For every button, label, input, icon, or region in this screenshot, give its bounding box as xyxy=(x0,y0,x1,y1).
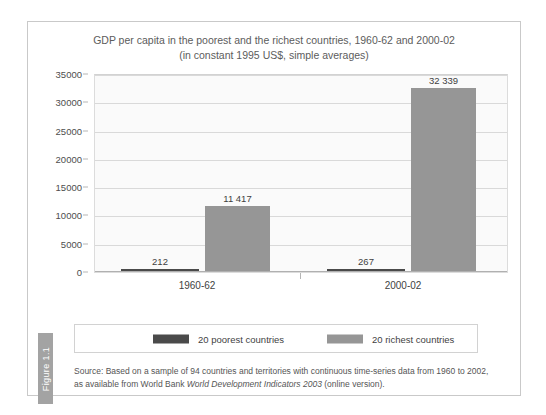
chart-legend: 20 poorest countries20 richest countries xyxy=(74,324,478,353)
chart-title-line-2: (in constant 1995 US$, simple averages) xyxy=(28,48,520,63)
y-axis-tick-label: 10000 xyxy=(56,210,82,221)
y-axis-tick-label: 20000 xyxy=(56,153,82,164)
bar-group: 26732 339 xyxy=(301,73,507,271)
bar[interactable]: 32 339 xyxy=(411,88,476,271)
plot-wrapper: 05000100001500020000250003000035000 2121… xyxy=(40,74,508,289)
y-axis-tick-label: 15000 xyxy=(56,182,82,193)
y-axis: 05000100001500020000250003000035000 xyxy=(40,74,88,273)
y-axis-tick-label: 35000 xyxy=(56,69,82,80)
x-axis: 1960-622000-02 xyxy=(94,273,508,295)
y-axis-tick-label: 25000 xyxy=(56,125,82,136)
bar-value-label: 212 xyxy=(152,256,168,267)
y-axis-tick-mark xyxy=(83,130,88,131)
bar[interactable]: 212 xyxy=(121,269,199,271)
y-axis-tick-mark xyxy=(83,158,88,159)
y-axis-tick-label: 30000 xyxy=(56,97,82,108)
y-axis-tick-label: 5000 xyxy=(61,238,82,249)
plot-area: 21211 41726732 339 xyxy=(94,74,508,273)
bar[interactable]: 11 417 xyxy=(205,206,270,271)
x-axis-tick-label: 2000-02 xyxy=(385,280,422,291)
source-publication-title: World Development Indicators 2003 xyxy=(187,379,322,389)
axis-baseline xyxy=(95,271,507,272)
legend-swatch xyxy=(327,334,363,343)
bar-value-label: 11 417 xyxy=(223,193,251,204)
bar-value-label: 32 339 xyxy=(429,75,458,86)
y-axis-tick-mark xyxy=(83,272,88,273)
source-note: Source: Based on a sample of 94 countrie… xyxy=(74,365,496,390)
y-axis-tick-mark xyxy=(83,215,88,216)
y-axis-tick-mark xyxy=(83,74,88,75)
figure-number-tab: Figure 1.1 xyxy=(38,333,53,404)
bar-value-label: 267 xyxy=(358,256,374,267)
y-axis-tick-mark xyxy=(83,187,88,188)
figure-frame: GDP per capita in the poorest and the ri… xyxy=(27,21,521,396)
bar[interactable]: 267 xyxy=(327,269,405,271)
bar-group: 21211 417 xyxy=(95,73,301,271)
chart-title: GDP per capita in the poorest and the ri… xyxy=(28,33,520,63)
y-axis-tick-mark xyxy=(83,243,88,244)
chart-title-line-1: GDP per capita in the poorest and the ri… xyxy=(28,33,520,48)
legend-entry[interactable]: 20 poorest countries xyxy=(153,333,284,344)
legend-label: 20 richest countries xyxy=(372,333,454,344)
legend-entry[interactable]: 20 richest countries xyxy=(327,333,454,344)
legend-swatch xyxy=(153,334,189,343)
figure-number-label: Figure 1.1 xyxy=(41,346,51,391)
y-axis-tick-label: 0 xyxy=(77,267,82,278)
x-axis-separator xyxy=(300,273,301,279)
y-axis-tick-mark xyxy=(83,102,88,103)
legend-label: 20 poorest countries xyxy=(198,333,284,344)
x-axis-tick-label: 1960-62 xyxy=(179,280,216,291)
